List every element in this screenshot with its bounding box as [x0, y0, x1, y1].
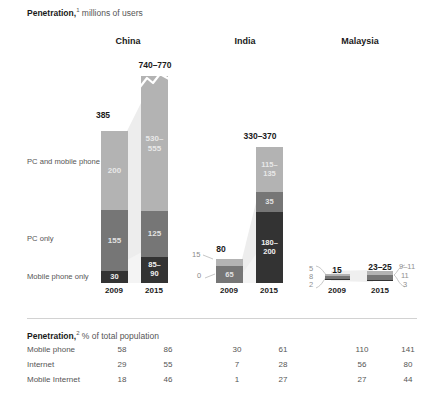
table-title: Penetration,2 % of total population [27, 330, 159, 341]
bar-segment-malaysia-2009-mobile-only [325, 279, 350, 280]
table-cell-internet-india-2009: 7 [224, 360, 250, 369]
bar-segment-china-2015-pc-only: 125 [141, 211, 168, 257]
bar-segment-india-2009-pc-and-mobile [216, 259, 243, 266]
table-title-bold: Penetration, [27, 331, 76, 341]
table-cell-internet-malaysia-2015: 80 [395, 360, 421, 369]
axis-year-china-2009: 2009 [94, 286, 134, 295]
table-row-label-mobile-internet: Mobile Internet [27, 375, 107, 384]
table-cell-mobile-phone-china-2009: 58 [109, 345, 135, 354]
table-row: Internet 29 55 7 28 56 80 [27, 360, 417, 373]
table-cell-internet-china-2015: 55 [155, 360, 181, 369]
bar-segment-china-2015-pc-and-mobile: 530– 555 [141, 76, 168, 211]
legend-label-pc-and-mobile: PC and mobile phone [27, 157, 102, 167]
bar-segment-china-2009-mobile-only: 30 [101, 271, 128, 283]
bar-segment-india-2015-mobile-only-line2: 200 [263, 248, 276, 257]
bar-india-2009[interactable]: 65 [216, 259, 243, 283]
bar-segment-china-2015-pc-and-mobile-line1: 530– [146, 134, 164, 144]
table-cell-mobile-phone-india-2015: 61 [270, 345, 296, 354]
bar-china-2015[interactable]: 530– 555 125 85– 90 [141, 76, 168, 283]
bar-segment-india-2015-pc-only: 35 [256, 192, 283, 212]
axis-year-india-2015: 2015 [249, 286, 289, 295]
table-cell-mobile-internet-malaysia-2015: 44 [395, 375, 421, 384]
legend-label-mobile-only: Mobile phone only [27, 272, 105, 282]
axis-tick-india-15-label: 15 [192, 250, 200, 259]
side-label-malaysia-2009-mobile-only: 2 [309, 281, 313, 289]
legend-label-pc-only: PC only [27, 234, 102, 244]
axis-tick-india-0: 0 [197, 271, 201, 280]
side-label-malaysia-2015-mobile-only: 3 [403, 281, 407, 289]
bar-total-india-2015: 330–370 [232, 131, 288, 141]
bar-total-india-2009: 80 [201, 244, 241, 254]
axis-year-china-2015: 2015 [134, 286, 174, 295]
bar-china-2009[interactable]: 200 155 30 [101, 131, 128, 283]
axis-year-malaysia-2009: 2009 [317, 286, 357, 295]
chart-title-rest: millions of users [79, 8, 142, 18]
table-cell-internet-malaysia-2009: 56 [349, 360, 375, 369]
table-cell-mobile-phone-malaysia-2015: 141 [395, 345, 421, 354]
table-cell-internet-india-2015: 28 [270, 360, 296, 369]
axis-tick-india-0-label: 0 [197, 271, 201, 280]
table-cell-mobile-phone-india-2009: 30 [224, 345, 250, 354]
table-cell-mobile-internet-india-2009: 1 [224, 375, 250, 384]
axis-break-zigzag-icon [139, 70, 171, 94]
table-cell-mobile-internet-china-2015: 46 [155, 375, 181, 384]
chart-title: Penetration,1 millions of users [27, 7, 143, 18]
table-row-label-internet: Internet [27, 360, 107, 369]
bar-segment-malaysia-2015-mobile-only [367, 280, 393, 282]
table-cell-internet-china-2009: 29 [109, 360, 135, 369]
chart-canvas: Penetration,1 millions of users China In… [0, 0, 431, 394]
bar-total-china-2009: 385 [83, 110, 123, 120]
table-divider [27, 318, 417, 319]
bar-segment-india-2015-pc-and-mobile: 115– 135 [256, 147, 283, 192]
bar-segment-china-2009-pc-only: 155 [101, 210, 128, 271]
table-row: Mobile phone 58 86 30 61 110 141 [27, 345, 417, 358]
bar-segment-india-2015-pc-and-mobile-line2: 135 [263, 170, 276, 179]
panel-title-china: China [68, 36, 188, 46]
axis-year-india-2009: 2009 [209, 286, 249, 295]
bar-india-2015[interactable]: 115– 135 35 180– 200 [256, 147, 283, 283]
bar-segment-india-2015-mobile-only: 180– 200 [256, 212, 283, 283]
table-cell-mobile-internet-malaysia-2009: 27 [349, 375, 375, 384]
bar-segment-china-2015-mobile-only-line2: 90 [150, 270, 158, 279]
chart-title-bold: Penetration, [27, 8, 76, 18]
bar-total-china-2015: 740–770 [127, 60, 183, 70]
table-cell-mobile-phone-china-2015: 86 [155, 345, 181, 354]
bar-segment-china-2009-pc-and-mobile: 200 [101, 131, 128, 210]
bar-malaysia-2015[interactable] [367, 271, 393, 281]
bar-segment-india-2009-pc-only: 65 [216, 266, 243, 283]
panel-title-malaysia: Malaysia [300, 36, 420, 46]
table-row-label-mobile-phone: Mobile phone [27, 345, 107, 354]
table-cell-mobile-internet-india-2015: 27 [270, 375, 296, 384]
bar-malaysia-2009[interactable] [325, 274, 350, 280]
panel-title-india: India [190, 36, 300, 46]
table-title-rest: % of total population [79, 331, 158, 341]
table-row: Mobile Internet 18 46 1 27 27 44 [27, 375, 417, 388]
table-cell-mobile-internet-china-2009: 18 [109, 375, 135, 384]
table-cell-mobile-phone-malaysia-2009: 110 [349, 345, 375, 354]
bar-segment-china-2015-mobile-only: 85– 90 [141, 257, 168, 283]
axis-tick-india-15: 15 [192, 250, 200, 259]
bar-segment-china-2015-pc-and-mobile-line2: 555 [148, 144, 161, 154]
